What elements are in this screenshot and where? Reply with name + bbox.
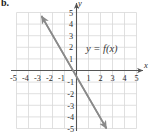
xtick-label-1: 1 — [86, 74, 90, 83]
ytick-label-neg2: -2 — [67, 90, 74, 99]
function-graph-figure: b. — [0, 0, 153, 133]
coordinate-plane: -5 -4 -3 -2 -1 1 2 3 4 5 5 4 3 2 1 -1 -2… — [0, 0, 153, 133]
xtick-label-4: 4 — [122, 74, 126, 83]
xtick-label-neg4: -4 — [22, 74, 29, 83]
xtick-label-neg1: -1 — [58, 74, 65, 83]
ytick-label-neg3: -3 — [67, 102, 74, 111]
xtick-label-5: 5 — [134, 74, 138, 83]
ytick-label-2: 2 — [69, 43, 73, 52]
xtick-label-neg3: -3 — [34, 74, 41, 83]
xtick-label-neg2: -2 — [46, 74, 53, 83]
x-axis-label: x — [143, 60, 148, 70]
ytick-label-neg1: -1 — [67, 78, 74, 87]
xtick-label-2: 2 — [98, 74, 102, 83]
ytick-label-3: 3 — [69, 32, 73, 41]
ytick-label-4: 4 — [69, 20, 73, 29]
ytick-label-1: 1 — [69, 55, 73, 64]
y-axis-label: y — [77, 0, 82, 8]
function-curve-arrow-end — [42, 16, 107, 129]
xtick-label-3: 3 — [110, 74, 114, 83]
xtick-label-neg5: -5 — [10, 74, 17, 83]
ytick-label-neg4: -4 — [67, 113, 74, 122]
ytick-label-5: 5 — [69, 9, 73, 18]
function-label: y = f(x) — [85, 43, 118, 55]
ytick-label-neg5: -5 — [67, 125, 74, 134]
